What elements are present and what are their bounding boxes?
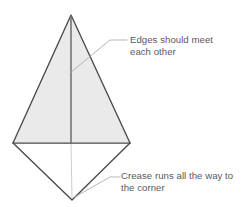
annotation-edges-meet-line1: Edges should meet bbox=[130, 34, 213, 46]
annotation-crease-corner-line1: Crease runs all the way to bbox=[121, 170, 233, 182]
annotation-crease-corner-line2: the corner bbox=[121, 182, 233, 194]
annotation-crease-corner: Crease runs all the way to the corner bbox=[121, 170, 233, 193]
figure-root: Edges should meet each other Crease runs… bbox=[0, 0, 250, 207]
annotation-edges-meet-line2: each other bbox=[130, 46, 213, 58]
annotation-edges-meet: Edges should meet each other bbox=[130, 34, 213, 57]
